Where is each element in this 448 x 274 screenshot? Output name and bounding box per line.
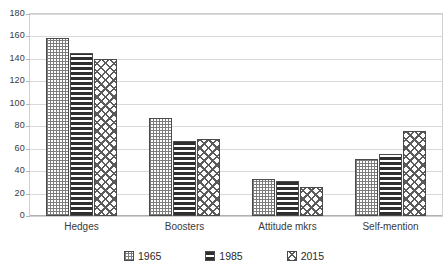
x-tick-label: Self-mention xyxy=(339,221,442,232)
bar xyxy=(149,118,172,216)
x-tick-label: Hedges xyxy=(30,221,133,232)
bar-group xyxy=(149,14,220,216)
plot-area xyxy=(30,14,442,216)
bar xyxy=(379,154,402,216)
y-tick-label: 60 xyxy=(15,143,25,153)
legend-item[interactable]: 1965 xyxy=(124,250,161,262)
bar-chart: 020406080100120140160180 HedgesBoostersA… xyxy=(0,0,448,274)
bar xyxy=(252,179,275,216)
y-tick-label: 160 xyxy=(9,30,25,40)
bar xyxy=(46,38,69,216)
bar xyxy=(355,159,378,216)
legend-label: 2015 xyxy=(301,250,324,262)
bar xyxy=(403,131,426,216)
y-tick-label: 0 xyxy=(20,210,25,220)
y-tick-label: 40 xyxy=(15,165,25,175)
bar-group xyxy=(355,14,426,216)
x-tick-label: Boosters xyxy=(133,221,236,232)
legend-swatch-icon xyxy=(124,251,134,261)
bar xyxy=(70,53,93,216)
y-tick-label: 120 xyxy=(9,75,25,85)
x-tick-label: Attitude mkrs xyxy=(236,221,339,232)
legend-swatch-icon xyxy=(205,251,215,261)
y-tick-label: 140 xyxy=(9,53,25,63)
bar-group xyxy=(252,14,323,216)
bar xyxy=(276,181,299,216)
bar xyxy=(94,59,117,216)
bar-group xyxy=(46,14,117,216)
legend-label: 1965 xyxy=(138,250,161,262)
bar xyxy=(300,187,323,216)
chart-legend: 196519852015 xyxy=(0,250,448,262)
legend-label: 1985 xyxy=(219,250,242,262)
y-tick-label: 80 xyxy=(15,120,25,130)
bar xyxy=(197,139,220,216)
legend-item[interactable]: 1985 xyxy=(205,250,242,262)
y-tick-label: 180 xyxy=(9,8,25,18)
bar xyxy=(173,141,196,216)
legend-swatch-icon xyxy=(287,251,297,261)
y-tick-mark xyxy=(26,216,30,217)
y-tick-label: 100 xyxy=(9,98,25,108)
y-tick-label: 20 xyxy=(15,188,25,198)
legend-item[interactable]: 2015 xyxy=(287,250,324,262)
